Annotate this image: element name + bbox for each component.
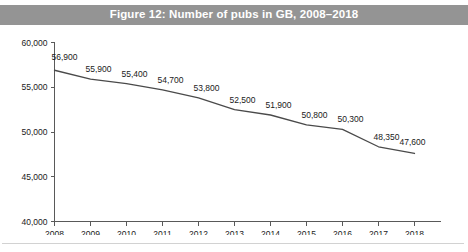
data-point-label: 56,900 [52,52,78,62]
x-tick-label: 2014 [261,229,280,236]
data-point-label: 53,800 [194,83,220,93]
x-axis-ticks: 2008200920102011201220132014201520162017… [45,222,424,236]
pubs-count-series [55,70,415,153]
line-chart: 60,00055,00050,00045,00040,000 200820092… [0,25,468,235]
figure-title-banner: Figure 12: Number of pubs in GB, 2008–20… [0,5,468,25]
data-point-label: 55,900 [86,64,112,74]
x-tick-label: 2013 [225,229,244,236]
data-point-label: 48,350 [374,132,400,142]
chart-plot-area: 60,00055,00050,00045,00040,000 200820092… [0,25,468,235]
y-axis-ticks: 60,00055,00050,00045,00040,000 [22,38,55,227]
data-point-label: 47,600 [400,137,426,147]
x-tick-label: 2016 [333,229,352,236]
y-tick-label: 60,000 [22,38,48,48]
footer-divider [2,243,464,244]
figure-root: Figure 12: Number of pubs in GB, 2008–20… [0,0,468,252]
x-tick-label: 2009 [81,229,100,236]
x-tick-label: 2011 [153,229,172,236]
x-tick-label: 2008 [45,229,64,236]
y-tick-label: 40,000 [22,217,48,227]
x-tick-label: 2018 [405,229,424,236]
data-point-label: 55,400 [122,69,148,79]
x-tick-label: 2017 [369,229,388,236]
x-tick-label: 2012 [189,229,208,236]
data-point-label: 50,800 [302,110,328,120]
y-tick-label: 55,000 [22,82,48,92]
y-tick-label: 45,000 [22,172,48,182]
data-point-labels: 56,90055,90055,40054,70053,80052,50051,9… [52,52,426,147]
data-point-label: 50,300 [338,114,364,124]
x-tick-label: 2015 [297,229,316,236]
data-point-label: 51,900 [266,100,292,110]
data-point-label: 54,700 [158,75,184,85]
data-point-label: 52,500 [230,95,256,105]
y-tick-label: 50,000 [22,127,48,137]
x-tick-label: 2010 [117,229,136,236]
page-title: Figure 12: Number of pubs in GB, 2008–20… [110,9,358,21]
